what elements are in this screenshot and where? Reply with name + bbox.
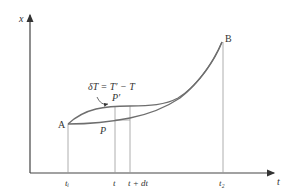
tick-t-dt: t + dt: [128, 178, 149, 188]
y-axis-label: x: [18, 13, 24, 24]
tick-ti: tᵢ: [65, 178, 70, 188]
point-p-prime-label: P′: [111, 92, 121, 103]
point-a-label: A: [58, 119, 66, 130]
x-axis-label: t: [277, 176, 280, 187]
tick-t: t: [113, 178, 116, 188]
point-b-label: B: [225, 33, 232, 44]
tick-t2: t₂: [219, 178, 225, 188]
annotation-leader: [97, 97, 108, 104]
point-p-label: P: [99, 125, 106, 136]
variation-diagram: x t A B P P′ δT = T′ − T tᵢ t t + dt t₂: [0, 0, 303, 196]
delta-t-annotation: δT = T′ − T: [88, 81, 136, 92]
